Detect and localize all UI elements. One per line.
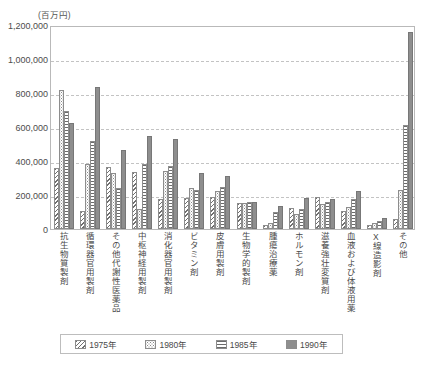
- legend-item: 1990年: [286, 338, 328, 350]
- x-axis-category-label: ホルモン剤: [293, 232, 302, 277]
- x-axis-category-label: 抗生物質製剤: [58, 232, 67, 286]
- legend-item: 1975年: [75, 338, 117, 350]
- x-axis-category-label: 腫瘍治療薬: [267, 232, 276, 277]
- chart-legend: 1975年1980年1985年1990年: [60, 334, 343, 354]
- x-axis-category-label: X線造影剤: [371, 232, 380, 278]
- x-axis-category-label: 循環器官用製剤: [84, 232, 93, 295]
- bar-3: [356, 191, 361, 229]
- x-axis-category-label: 消化器官用製剤: [162, 232, 171, 295]
- bar-3: [408, 32, 413, 229]
- bar-group: [77, 27, 103, 229]
- bar-3: [95, 87, 100, 229]
- bar-group: [155, 27, 181, 229]
- legend-swatch-icon: [75, 340, 86, 349]
- bar-group: [364, 27, 390, 229]
- bar-3: [304, 198, 309, 229]
- bar-3: [330, 199, 335, 229]
- legend-label: 1990年: [300, 338, 328, 350]
- bar-group: [260, 27, 286, 229]
- x-axis-category-label: 生物学的製剤: [241, 232, 250, 286]
- x-axis-category-label: その他: [397, 232, 406, 259]
- y-axis: 0200,000400,000600,000800,0001,000,0001,…: [0, 0, 48, 367]
- x-axis-category-label: 皮膚用製剤: [214, 232, 223, 277]
- bar-3: [121, 150, 126, 229]
- legend-label: 1975年: [89, 338, 117, 350]
- y-axis-tick-label: 1,000,000: [2, 55, 48, 65]
- bar-group: [103, 27, 129, 229]
- legend-label: 1980年: [159, 338, 187, 350]
- x-axis-category-label: その他代謝性医薬品: [110, 232, 119, 313]
- bar-chart: (百万円) 0200,000400,000600,000800,0001,000…: [0, 0, 423, 367]
- bar-group: [129, 27, 155, 229]
- legend-label: 1985年: [230, 338, 258, 350]
- bar-group: [234, 27, 260, 229]
- x-axis-category-label: 中枢神経用製剤: [136, 232, 145, 295]
- bar-group: [181, 27, 207, 229]
- legend-item: 1985年: [216, 338, 258, 350]
- legend-item: 1980年: [145, 338, 187, 350]
- bar-group: [390, 27, 416, 229]
- bar-group: [207, 27, 233, 229]
- legend-swatch-icon: [286, 340, 297, 349]
- legend-swatch-icon: [216, 340, 227, 349]
- bar-3: [173, 139, 178, 229]
- y-axis-tick-label: 800,000: [2, 89, 48, 99]
- bar-group: [338, 27, 364, 229]
- bar-group: [286, 27, 312, 229]
- bars-layer: [51, 27, 414, 229]
- y-axis-tick-label: 0: [2, 225, 48, 235]
- bar-3: [225, 176, 230, 229]
- legend-swatch-icon: [145, 340, 156, 349]
- x-axis-category-labels: 抗生物質製剤循環器官用製剤その他代謝性医薬品中枢神経用製剤消化器官用製剤ビタミン…: [50, 232, 415, 324]
- x-axis-category-label: ビタミン剤: [188, 232, 197, 277]
- bar-group: [312, 27, 338, 229]
- x-axis-category-label: 血液および体液用薬: [345, 232, 354, 313]
- y-axis-tick-label: 600,000: [2, 123, 48, 133]
- plot-area: [50, 26, 415, 230]
- y-axis-tick-label: 200,000: [2, 191, 48, 201]
- bar-3: [382, 218, 387, 229]
- bar-3: [199, 173, 204, 229]
- y-axis-tick-label: 1,200,000: [2, 21, 48, 31]
- y-axis-tick-label: 400,000: [2, 157, 48, 167]
- bar-3: [252, 202, 257, 229]
- bar-3: [278, 206, 283, 229]
- bar-3: [69, 123, 74, 229]
- x-axis-category-label: 滋養強壮変質剤: [319, 232, 328, 295]
- bar-3: [147, 136, 152, 230]
- bar-group: [51, 27, 77, 229]
